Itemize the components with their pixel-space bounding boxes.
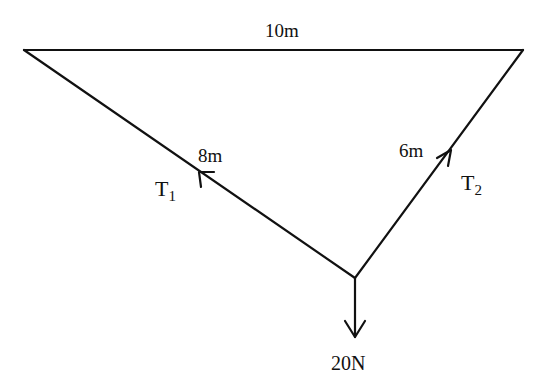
force-diagram: 10m 8m 6m T1 T2 20N [0,0,536,387]
t2-label: T2 [461,170,482,198]
weight-label: 20N [331,352,365,374]
right-rope-line [355,50,523,278]
t1-label: T1 [155,176,176,204]
right-length-label: 6m [399,140,424,161]
left-length-label: 8m [198,145,223,166]
left-rope-line [24,50,355,278]
top-length-label: 10m [265,20,299,41]
